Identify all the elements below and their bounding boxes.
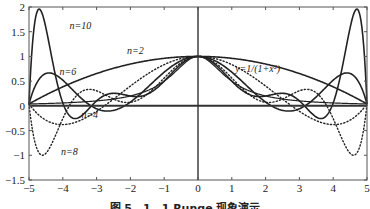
y-tick-label: −1 [13, 149, 25, 161]
y-tick-label: 0 [20, 100, 26, 112]
x-tick-label: 4 [330, 182, 336, 194]
x-tick-label: 2 [263, 182, 269, 194]
curve-label: n=8 [61, 146, 78, 157]
x-tick-label: 0 [195, 182, 201, 194]
y-tick-label: −1.5 [5, 174, 25, 186]
curve-label: n=2 [127, 45, 144, 56]
x-tick-label: −4 [57, 182, 69, 194]
y-tick-label: 0.5 [11, 75, 25, 87]
x-tick-label: 1 [229, 182, 235, 194]
x-tick-label: 5 [364, 182, 370, 194]
x-tick-label: −1 [158, 182, 170, 194]
curve-label: n=10 [70, 20, 92, 31]
x-tick-label: −3 [91, 182, 103, 194]
curve-label: n=4 [81, 109, 98, 120]
y-tick-label: 2 [20, 1, 26, 13]
annotations: n=10n=6n=2n=4n=8y=1/(1+x²) [59, 20, 280, 157]
y-tick-label: −0.5 [5, 125, 25, 137]
x-tick-label: 3 [297, 182, 303, 194]
runge-chart: −5−4−3−2−1012345−1.5−1−0.500.511.52 n=10… [0, 0, 370, 209]
curve-label: n=6 [59, 66, 76, 77]
x-tick-label: −2 [125, 182, 137, 194]
y-tick-label: 1 [20, 50, 26, 62]
curve-label: y=1/(1+x²) [234, 63, 280, 75]
y-tick-label: 1.5 [11, 26, 25, 38]
figure-caption: 图 5．1．1 Runge 现象演示 [0, 199, 370, 209]
